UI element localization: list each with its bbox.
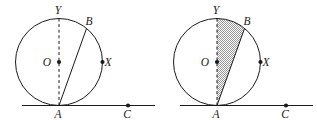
point-b-label: B (243, 15, 250, 27)
point-b-label: B (85, 15, 92, 27)
geometry-figure-pair: YBOXACYBOXAC (0, 0, 317, 133)
point-c-label: C (123, 108, 131, 120)
point-o-center-marker (215, 60, 219, 64)
point-y-label: Y (55, 4, 63, 16)
point-o-center-marker (57, 60, 61, 64)
point-o-center-label: O (201, 56, 210, 68)
point-o-center-label: O (43, 56, 52, 68)
panel-left-unshaded-circle-diagram: YBOXAC (16, 4, 156, 120)
panel-right-shaded-circle-diagram: YBOXAC (174, 4, 314, 120)
point-x-label: X (103, 56, 112, 68)
point-x-label: X (261, 56, 270, 68)
panels-layer: YBOXACYBOXAC (16, 4, 314, 120)
figure-canvas: YBOXACYBOXAC (0, 0, 317, 133)
chord-ab (59, 29, 87, 106)
point-c-label: C (281, 108, 289, 120)
point-a-label: A (211, 108, 220, 120)
point-y-label: Y (213, 4, 221, 16)
point-c-marker (126, 103, 130, 107)
point-a-label: A (53, 108, 62, 120)
point-c-marker (284, 103, 288, 107)
shaded-segment-yab (217, 19, 245, 106)
